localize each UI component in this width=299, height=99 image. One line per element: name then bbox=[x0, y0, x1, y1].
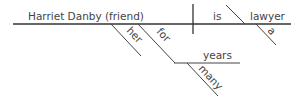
verb-label: is bbox=[213, 10, 221, 22]
for-preposition-line bbox=[138, 24, 175, 63]
for-label: for bbox=[155, 25, 174, 44]
years-label: years bbox=[203, 49, 232, 61]
predicate-nominative-label: lawyer bbox=[250, 10, 286, 22]
a-label: a bbox=[266, 24, 279, 37]
subject-label: Harriet Danby (friend) bbox=[28, 10, 144, 22]
predicate-nominative-divider bbox=[226, 5, 245, 24]
sentence-diagram: Harriet Danby (friend) is lawyer her for… bbox=[0, 0, 299, 99]
